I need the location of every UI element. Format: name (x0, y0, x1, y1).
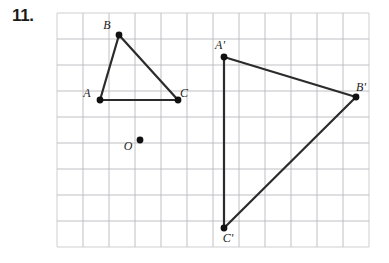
problem-figure-page: 11. ABCOA'B'C' (0, 0, 389, 263)
point-label-A-prime: A' (214, 38, 225, 52)
point-label-C: C (180, 86, 189, 100)
vertex-point (97, 97, 104, 104)
point-label-C-prime: C' (223, 231, 234, 245)
vertex-point (221, 54, 228, 61)
vertex-point (116, 32, 123, 39)
geometry-figure: ABCOA'B'C' (0, 0, 389, 263)
point-label-B-prime: B' (356, 80, 366, 94)
center-of-dilation-point (137, 137, 144, 144)
point-label-B: B (103, 18, 111, 32)
vertex-point (353, 94, 360, 101)
point-label-A: A (82, 86, 91, 100)
segment-AB (100, 35, 119, 100)
segment-BC (119, 35, 178, 100)
point-label-O: O (124, 139, 133, 153)
triangle-segments (100, 35, 356, 228)
